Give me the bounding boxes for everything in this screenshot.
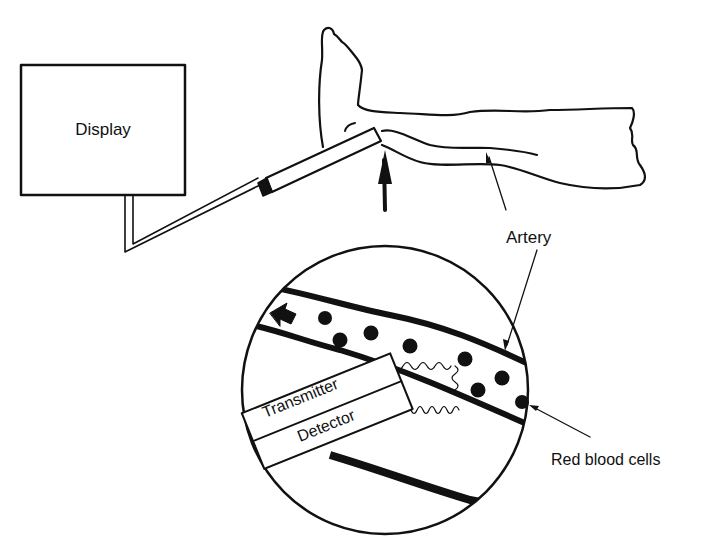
blood-flow-arrow-icon (270, 303, 296, 326)
artery-leader-circle (503, 250, 537, 351)
deep-vessel (330, 455, 545, 520)
leg-with-foot (319, 28, 645, 189)
artery-leader-leg (486, 152, 506, 210)
cable (125, 178, 260, 252)
display-label: Display (75, 120, 131, 139)
pointer-arrow (378, 150, 392, 210)
red-blood-cells-label: Red blood cells (551, 451, 660, 468)
doppler-diagram: Display Artery Transmitter Detector Red … (0, 0, 715, 546)
rbc-leader (529, 405, 590, 437)
probe (258, 128, 381, 196)
artery-label: Artery (506, 228, 552, 247)
